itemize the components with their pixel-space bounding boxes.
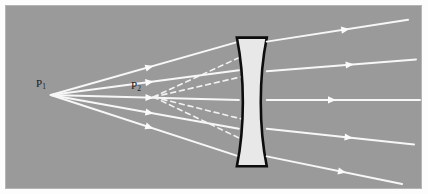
emergent-ray xyxy=(267,20,408,42)
ray-direction-arrow-icon xyxy=(345,61,353,68)
emergent-ray-group xyxy=(267,20,420,184)
ray-direction-arrow-icon xyxy=(145,108,154,115)
ray-direction-arrow-icon xyxy=(341,27,350,34)
ray-direction-arrow-icon xyxy=(328,96,336,103)
figure-canvas: P1 P2 xyxy=(0,0,428,194)
incident-ray-group xyxy=(51,42,239,157)
ray-direction-arrow-icon xyxy=(144,123,153,130)
incident-ray xyxy=(51,95,239,156)
incident-ray xyxy=(51,42,239,95)
label-point-p1: P1 xyxy=(36,78,46,89)
label-p1-subscript: 1 xyxy=(42,82,46,91)
diverging-lens-shape xyxy=(237,38,267,167)
emergent-ray xyxy=(267,129,414,145)
ray-diagram-svg xyxy=(6,6,421,188)
incident-ray xyxy=(51,70,239,95)
ray-direction-arrow-icon xyxy=(337,167,346,174)
ray-direction-arrow-icon xyxy=(145,94,153,101)
emergent-ray xyxy=(267,156,402,184)
label-p2-subscript: 2 xyxy=(137,84,141,93)
lens-group xyxy=(237,38,267,167)
emergent-ray xyxy=(267,59,416,71)
label-point-p2: P2 xyxy=(131,80,141,91)
diagram-panel: P1 P2 xyxy=(5,5,422,189)
